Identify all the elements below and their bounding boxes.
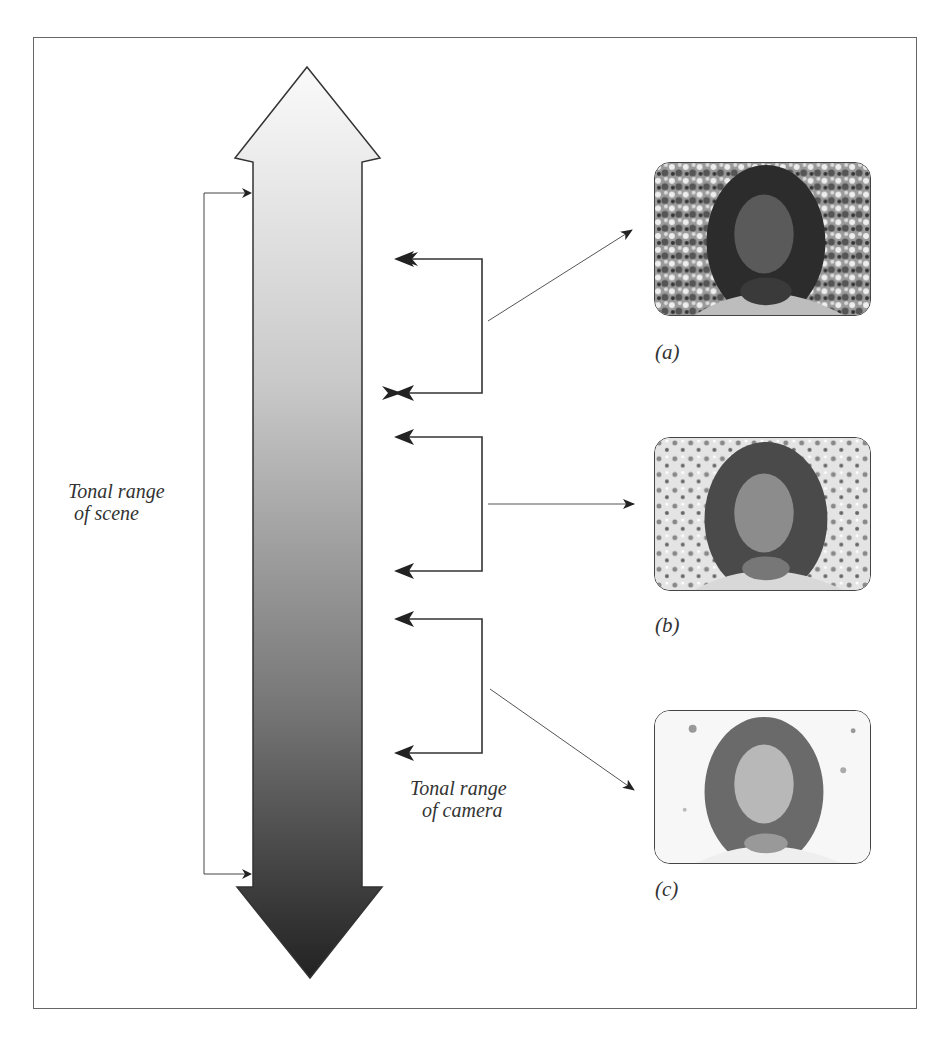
caption-b: (b) xyxy=(655,613,680,638)
camera-range-bracket-c xyxy=(394,611,634,790)
camera-range-bracket-b xyxy=(394,429,634,579)
scene-range-label: Tonal range of scene xyxy=(68,480,165,524)
photo-a xyxy=(654,162,871,316)
photo-c xyxy=(654,710,871,864)
tonal-gradient-arrow xyxy=(235,67,382,978)
camera-range-label: Tonal range of camera xyxy=(410,777,507,821)
photo-b xyxy=(654,437,871,591)
caption-a: (a) xyxy=(655,340,680,365)
caption-c: (c) xyxy=(655,877,678,902)
scene-range-bracket xyxy=(204,188,252,879)
camera-range-bracket-a xyxy=(394,230,632,401)
